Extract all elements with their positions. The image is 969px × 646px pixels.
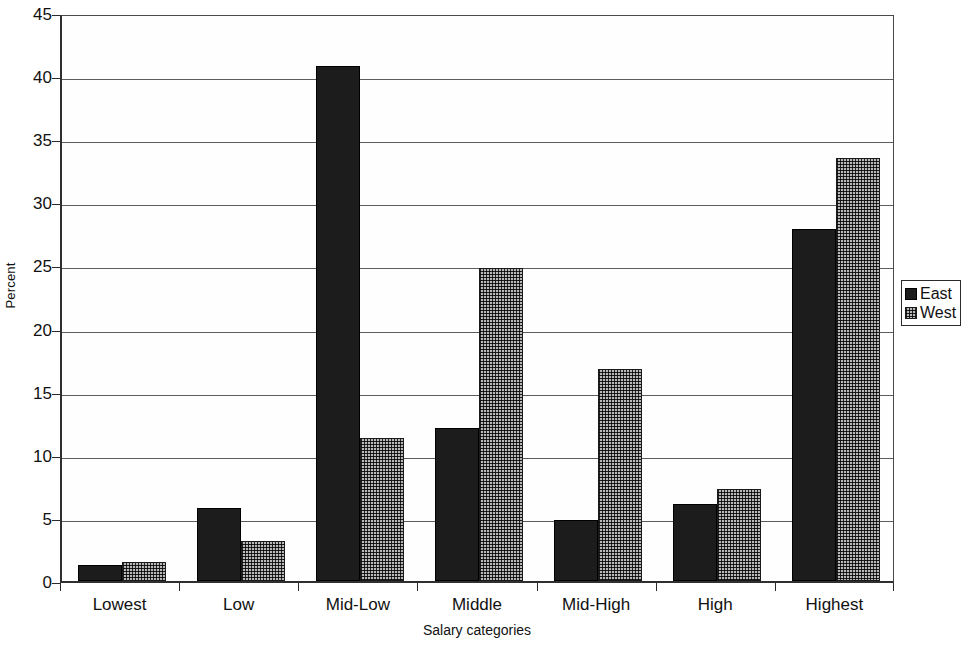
x-axis-title: Salary categories <box>60 622 894 638</box>
x-axis-tick-mark <box>298 583 299 591</box>
x-axis-tick-mark <box>179 583 180 591</box>
bar-east-mid-high <box>554 520 598 581</box>
y-axis-tick-mark <box>52 331 60 332</box>
legend-item-west[interactable]: West <box>905 303 956 322</box>
bar-group <box>78 16 166 581</box>
bar-east-lowest <box>78 565 122 581</box>
y-axis-tick-label: 25 <box>8 258 52 275</box>
bar-chart: Percent 051015202530354045 LowestLowMid-… <box>0 0 969 646</box>
x-axis-tick-mark <box>656 583 657 591</box>
x-axis-tick-label-mid-low: Mid-Low <box>298 594 417 616</box>
legend-label: East <box>920 286 952 302</box>
bar-west-mid-high <box>598 369 642 581</box>
x-axis-tick-label-lowest: Lowest <box>60 594 179 616</box>
bar-west-low <box>241 541 285 581</box>
bar-west-high <box>717 489 761 581</box>
bars-layer <box>62 16 893 581</box>
y-axis-tick-mark <box>52 394 60 395</box>
bar-group <box>316 16 404 581</box>
y-axis-tick-mark <box>52 520 60 521</box>
x-axis-tick-mark <box>537 583 538 591</box>
bar-east-highest <box>792 229 836 581</box>
bar-east-low <box>197 508 241 581</box>
x-axis-tick-label-low: Low <box>179 594 298 616</box>
y-axis-tick-label: 10 <box>8 448 52 465</box>
bar-group <box>435 16 523 581</box>
y-axis-tick-label: 5 <box>8 511 52 528</box>
plot-area <box>60 15 894 583</box>
bar-west-mid-low <box>360 438 404 581</box>
bar-east-mid-low <box>316 66 360 581</box>
y-axis-tick-label: 35 <box>8 132 52 149</box>
bar-west-highest <box>836 158 880 581</box>
y-axis-tick-mark <box>52 204 60 205</box>
x-axis-tick-label-high: High <box>656 594 775 616</box>
y-axis-tick-label: 20 <box>8 322 52 339</box>
bar-west-lowest <box>122 562 166 581</box>
bar-group <box>673 16 761 581</box>
bar-group <box>554 16 642 581</box>
legend-swatch-west-icon <box>905 307 917 319</box>
bar-west-middle <box>479 268 523 581</box>
y-axis-tick-label: 0 <box>8 574 52 591</box>
x-axis-tick-mark <box>417 583 418 591</box>
x-axis-tick-mark <box>893 583 894 591</box>
legend-swatch-east-icon <box>905 288 917 300</box>
bar-east-middle <box>435 428 479 581</box>
x-axis-tick-mark <box>60 583 61 591</box>
y-axis-tick-mark <box>52 15 60 16</box>
legend-item-east[interactable]: East <box>905 284 956 303</box>
x-axis-tick-labels: LowestLowMid-LowMiddleMid-HighHighHighes… <box>60 594 894 620</box>
x-axis-tick-marks <box>60 583 894 593</box>
y-axis-tick-mark <box>52 141 60 142</box>
y-axis-tick-mark <box>52 78 60 79</box>
y-axis-tick-label: 15 <box>8 385 52 402</box>
y-axis-tick-label: 45 <box>8 6 52 23</box>
y-axis-tick-labels: 051015202530354045 <box>0 0 52 646</box>
y-axis-tick-mark <box>52 583 60 584</box>
x-axis-tick-label-middle: Middle <box>417 594 536 616</box>
y-axis-tick-label: 40 <box>8 69 52 86</box>
bar-group <box>197 16 285 581</box>
legend: EastWest <box>901 280 961 326</box>
bar-group <box>792 16 880 581</box>
legend-label: West <box>920 305 956 321</box>
x-axis-tick-mark <box>775 583 776 591</box>
y-axis-tick-label: 30 <box>8 195 52 212</box>
x-axis-tick-label-mid-high: Mid-High <box>537 594 656 616</box>
y-axis-tick-mark <box>52 457 60 458</box>
bar-east-high <box>673 504 717 581</box>
y-axis-tick-mark <box>52 267 60 268</box>
x-axis-tick-label-highest: Highest <box>775 594 894 616</box>
